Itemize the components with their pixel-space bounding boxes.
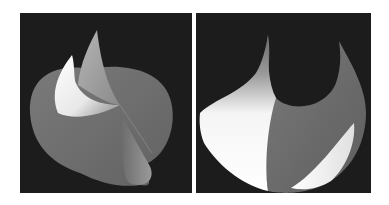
left-surface-panel: [20, 13, 192, 193]
right-surface-panel: [196, 13, 371, 193]
left-surface-render: [20, 13, 192, 193]
right-surface-render: [196, 13, 371, 193]
